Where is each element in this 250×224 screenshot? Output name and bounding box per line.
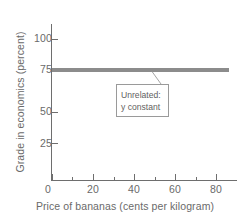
x-tick-label-80: 80 [210, 183, 222, 195]
y-tick-100 [52, 39, 58, 40]
x-tick-60 [175, 174, 176, 180]
annotation-line-1: Unrelated: [121, 89, 161, 101]
series-line-grade-in-economics [52, 68, 229, 72]
x-axis-title: Price of bananas (cents per kilogram) [0, 200, 250, 212]
x-axis-line [51, 180, 237, 181]
x-tick-minor-50 [155, 177, 156, 181]
annotation-callout-text: Unrelated: y constant [121, 89, 161, 113]
y-tick-label-50: 50 [40, 105, 52, 117]
x-tick-80 [216, 174, 217, 180]
x-tick-label-0: 0 [45, 183, 51, 195]
y-tick-25 [52, 143, 58, 144]
x-tick-label-20: 20 [87, 183, 99, 195]
x-tick-minor-10 [72, 177, 73, 181]
x-tick-40 [134, 174, 135, 180]
annotation-callout-box: Unrelated: y constant [116, 84, 169, 117]
y-tick-label-25: 25 [40, 137, 52, 149]
y-tick-50 [52, 112, 58, 113]
y-tick-label-75: 75 [40, 63, 52, 75]
y-axis-title: Grade in economics (percent) [14, 12, 26, 192]
x-tick-0 [52, 174, 53, 180]
x-tick-label-40: 40 [128, 183, 140, 195]
x-tick-20 [93, 174, 94, 180]
x-tick-label-60: 60 [169, 183, 181, 195]
annotation-line-2: y constant [121, 101, 161, 113]
x-tick-minor-30 [114, 177, 115, 181]
y-axis-line [51, 24, 52, 181]
x-tick-minor-70 [196, 177, 197, 181]
plot-area: 100 75 50 25 0 20 40 60 80 Unrelated: [0, 0, 250, 224]
y-tick-label-100: 100 [34, 32, 52, 44]
chart-figure: 100 75 50 25 0 20 40 60 80 Unrelated: [0, 0, 250, 224]
